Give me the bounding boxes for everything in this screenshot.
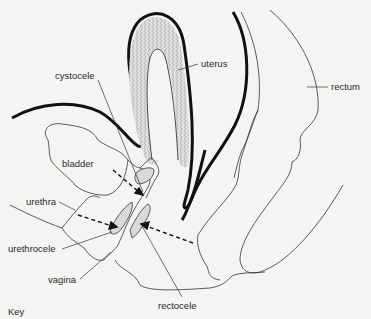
label-cystocele: cystocele [55,70,95,81]
label-rectocele: rectocele [158,300,197,311]
rectum-anterior-line [234,12,259,178]
label-urethrocele: urethrocele [8,243,56,254]
rectocele-leader [142,226,182,297]
urethrocele-bulge [110,202,132,234]
label-bladder: bladder [62,158,94,169]
label-rectum: rectum [331,81,360,92]
rectum-arrow [141,222,193,243]
rectocele-bulge [130,204,150,238]
perineum-outline [115,260,265,290]
cystocele-bulge [135,168,154,184]
vagina-leader [80,252,111,279]
label-urethra: urethra [26,196,57,207]
key-label: Key [8,306,25,317]
label-uterus: uterus [201,58,228,69]
label-vagina: vagina [48,274,77,285]
pelvic-prolapse-diagram: uterus rectum cystocele bladder urethra … [0,0,371,319]
urethra-arrow [78,215,117,229]
urethra-leader [59,202,75,210]
urethrocele-leader [62,232,112,249]
